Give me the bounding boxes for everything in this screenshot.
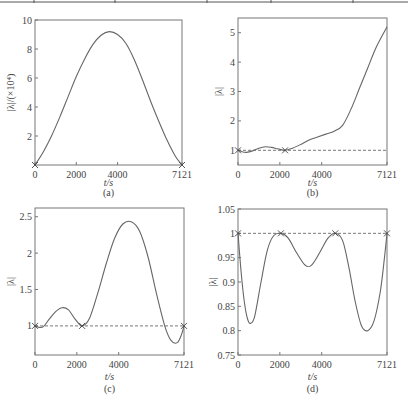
axes-frame: [35, 208, 184, 355]
x-tick-label: 2000: [67, 359, 87, 370]
y-axis-label: |λ|: [5, 277, 16, 286]
y-axis-label: |λ|/(×10⁴): [5, 74, 17, 111]
y-tick-label: 0.85: [218, 301, 236, 312]
data-curve: [35, 32, 182, 165]
axes-frame: [35, 20, 182, 165]
y-tick-label: 2: [27, 248, 32, 259]
x-tick-label: 2000: [270, 359, 290, 370]
y-tick-label: 2: [230, 115, 235, 126]
panel-label: (d): [307, 383, 319, 395]
panel-label: (b): [307, 187, 319, 199]
axes-frame: [238, 209, 387, 355]
data-curve: [35, 221, 184, 343]
x-axis-label: t/s: [105, 371, 115, 382]
top-table-rule: [0, 0, 408, 3]
x-tick-label: 0: [33, 169, 38, 180]
y-axis-label: |λ|: [207, 278, 218, 287]
y-tick-label: 10: [22, 15, 32, 26]
y-tick-label: 8: [27, 44, 32, 55]
y-tick-label: 1: [27, 320, 32, 331]
chart-panel-b: 020004000712112345t/s|λ|(b): [213, 18, 397, 199]
x-tick-label: 7121: [174, 359, 194, 370]
chart-panel-d: 02000400071210.750.80.850.90.9511.05t/s|…: [207, 204, 397, 396]
y-tick-label: 6: [27, 73, 32, 84]
panel-label: (a): [103, 187, 114, 199]
y-tick-label: 1.05: [218, 204, 236, 215]
y-tick-label: 2: [27, 131, 32, 142]
y-tick-label: 1: [230, 228, 235, 239]
panel-label: (c): [104, 383, 115, 395]
x-tick-label: 7121: [377, 359, 397, 370]
y-tick-label: 4: [230, 57, 235, 68]
x-tick-label: 2000: [66, 169, 86, 180]
chart-panel-a: 0200040007121246810t/s|λ|/(×10⁴)(a): [5, 15, 192, 200]
x-axis-label: t/s: [308, 371, 318, 382]
y-tick-label: 1: [230, 145, 235, 156]
x-tick-label: 0: [236, 169, 241, 180]
y-tick-label: 0.75: [218, 350, 236, 361]
y-tick-label: 5: [230, 27, 235, 38]
x-tick-label: 7121: [172, 169, 192, 180]
x-tick-label: 4000: [109, 359, 129, 370]
y-tick-label: 3: [230, 86, 235, 97]
y-tick-label: 1.5: [20, 284, 33, 295]
data-curve: [238, 27, 387, 153]
y-tick-label: 0.95: [218, 252, 236, 263]
y-axis-label: |λ|: [213, 87, 224, 96]
figure-canvas: 0200040007121246810t/s|λ|/(×10⁴)(a)02000…: [0, 0, 408, 399]
x-tick-label: 4000: [312, 359, 332, 370]
axes-frame: [238, 18, 387, 165]
x-tick-label: 0: [33, 359, 38, 370]
data-curve: [238, 233, 387, 331]
chart-panel-c: 020004000712111.522.5t/s|λ|(c): [5, 208, 194, 395]
y-tick-label: 0.8: [223, 325, 236, 336]
y-tick-label: 4: [27, 102, 32, 113]
x-tick-label: 7121: [377, 169, 397, 180]
y-tick-label: 2.5: [20, 211, 33, 222]
x-tick-label: 0: [236, 359, 241, 370]
y-tick-label: 0.9: [223, 277, 236, 288]
x-tick-label: 2000: [270, 169, 290, 180]
